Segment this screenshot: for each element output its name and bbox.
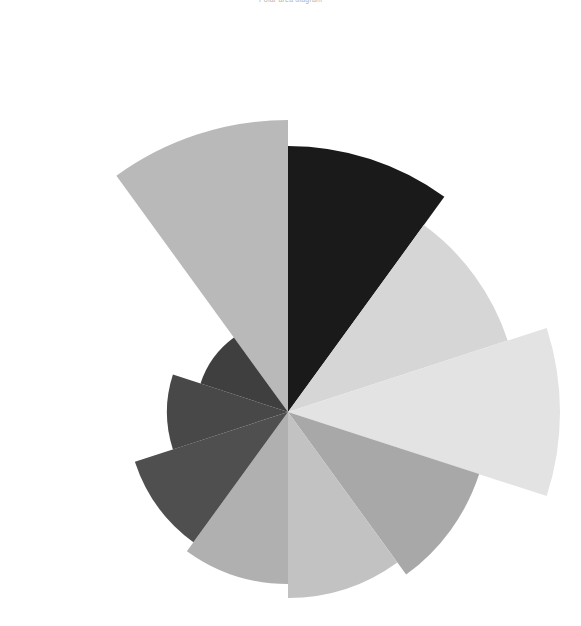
chart-slice-group xyxy=(116,120,560,598)
chart-slice[interactable] xyxy=(116,120,288,412)
polar-area-chart xyxy=(0,0,581,626)
chart-canvas: Polar area diagram xyxy=(0,0,581,626)
